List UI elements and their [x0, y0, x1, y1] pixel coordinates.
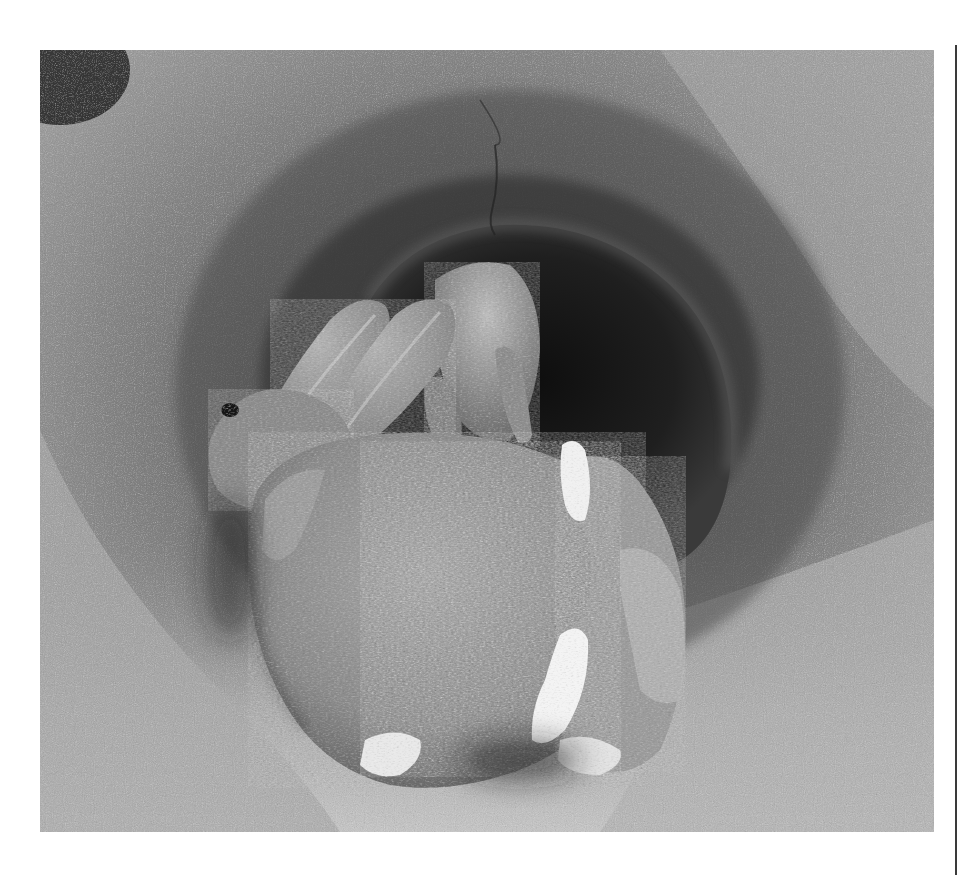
- photo-rendering: [40, 50, 934, 832]
- vertical-rule: [955, 45, 957, 875]
- rabbit-burrow-photo: Rabbits huddled at the entrance of a san…: [40, 50, 934, 832]
- page: Rabbits huddled at the entrance of a san…: [0, 0, 972, 875]
